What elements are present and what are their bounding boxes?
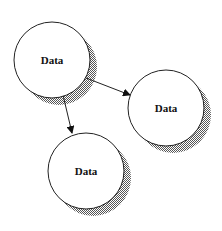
diagram-svg: DataDataData (0, 0, 222, 231)
nodes: DataDataData (14, 22, 204, 209)
data-node-2: Data (128, 70, 204, 146)
node-label: Data (41, 54, 64, 66)
node-label: Data (75, 165, 98, 177)
edge-arrow-n1-to-n2 (86, 78, 130, 95)
data-node-1: Data (14, 22, 90, 98)
diagram-canvas: DataDataData (0, 0, 222, 231)
data-node-3: Data (48, 133, 124, 209)
node-label: Data (155, 102, 178, 114)
